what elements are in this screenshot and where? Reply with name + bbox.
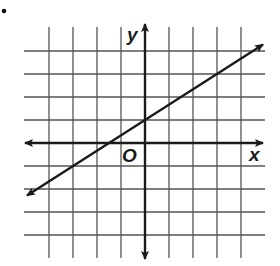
coordinate-plane: y x O bbox=[0, 0, 280, 266]
plotted-line bbox=[145, 45, 263, 120]
y-axis-label: y bbox=[126, 24, 139, 45]
bullet-icon bbox=[2, 9, 7, 14]
origin-label: O bbox=[122, 145, 137, 166]
x-axis-label: x bbox=[248, 144, 261, 165]
